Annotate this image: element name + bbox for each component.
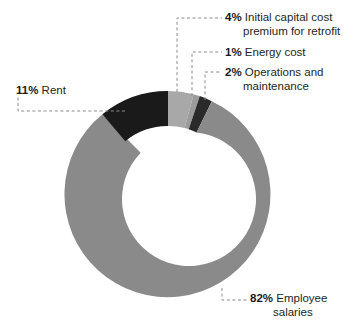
label-operations-maintenance-percent: 2% xyxy=(225,66,242,78)
leader-rent xyxy=(18,96,125,111)
label-initial-capital-text-2: premium for retrofit xyxy=(225,25,355,39)
leader-initial-capital xyxy=(177,18,222,92)
label-energy-cost-percent: 1% xyxy=(225,46,242,58)
label-rent-text: Rent xyxy=(42,84,66,96)
label-rent: 11% Rent xyxy=(16,84,66,98)
label-initial-capital-percent: 4% xyxy=(225,11,242,23)
label-energy-cost-text: Energy cost xyxy=(245,46,306,58)
label-employee-salaries-text-2: salaries xyxy=(250,306,356,320)
chart-page: 4% Initial capital cost premium for retr… xyxy=(0,0,358,324)
label-operations-maintenance-text: Operations and xyxy=(245,66,324,78)
label-initial-capital-text: Initial capital cost xyxy=(245,11,333,23)
slice-employee-salaries[interactable] xyxy=(64,101,270,297)
label-rent-percent: 11% xyxy=(16,84,38,96)
label-operations-maintenance: 2% Operations and maintenance xyxy=(225,66,351,93)
leader-employee-salaries xyxy=(222,288,247,300)
label-initial-capital: 4% Initial capital cost premium for retr… xyxy=(225,11,355,38)
label-employee-salaries-percent: 82% xyxy=(250,292,273,304)
leader-operations-maintenance xyxy=(205,72,222,100)
label-employee-salaries: 82% Employee salaries xyxy=(250,292,356,319)
leader-energy-cost xyxy=(192,52,222,96)
label-operations-maintenance-text-2: maintenance xyxy=(225,80,351,94)
label-employee-salaries-text: Employee xyxy=(276,292,327,304)
label-energy-cost: 1% Energy cost xyxy=(225,46,306,60)
